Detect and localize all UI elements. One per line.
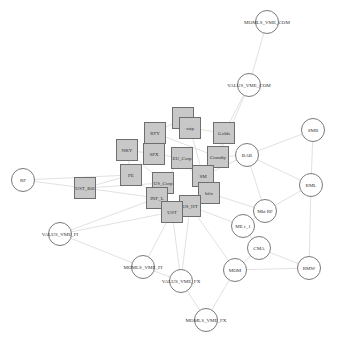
circle-node-bab[interactable]: BAB (235, 143, 259, 167)
node-label: SPX (149, 152, 158, 157)
node-label: VALUS_VME_FI (42, 232, 79, 237)
node-label: NKY (122, 148, 133, 153)
node-label: INF_L (150, 196, 164, 201)
square-node-spx[interactable]: SPX (143, 143, 165, 165)
graph-edges (0, 0, 338, 341)
node-label: RMW (303, 266, 316, 271)
node-label: BAB (242, 153, 252, 158)
square-node-rty[interactable]: RTY (144, 122, 166, 144)
square-node-pe[interactable]: PE (120, 164, 142, 186)
node-label: Comdty (210, 155, 226, 160)
graph-edge (60, 234, 143, 267)
circle-node-me-r-1[interactable]: ME r_1 (231, 214, 255, 238)
node-label: UST_Bill (75, 186, 94, 191)
node-label: VALUS_VME_COM (227, 83, 271, 88)
square-node-ust[interactable]: UST (161, 201, 183, 223)
circle-node-smb[interactable]: SMB (301, 118, 325, 142)
node-label: SMB (308, 128, 319, 133)
node-label: MOMLS_VME_COM (244, 20, 290, 25)
square-node-sstp[interactable]: sstp (179, 117, 201, 139)
node-label: US_Corp (154, 181, 173, 186)
circle-node-momls-vme-fx[interactable]: MOMLS_VME_FX (194, 308, 218, 332)
node-label: RTY (150, 131, 160, 136)
node-label: PE (128, 173, 134, 178)
node-label: MOMLS_VME_FX (186, 318, 227, 323)
node-label: SM (199, 174, 206, 179)
circle-node-valus-vme-fx[interactable]: VALUS_VME_FX (169, 269, 193, 293)
node-label: EU_Corp (172, 156, 191, 161)
node-label: bfix (205, 191, 213, 196)
node-label: RML (306, 183, 317, 188)
node-label: VALUS_VME_FX (162, 279, 201, 284)
circle-node-mkt-rf[interactable]: Mkt RF (253, 199, 277, 223)
graph-edge (60, 198, 157, 234)
square-node-ust-bill[interactable]: UST_Bill (74, 177, 96, 199)
circle-node-rf[interactable]: RF (11, 168, 35, 192)
node-label: US_HT (182, 204, 198, 209)
circle-node-valus-vme-fi[interactable]: VALUS_VME_FI (48, 222, 72, 246)
square-node-nky[interactable]: NKY (116, 139, 138, 161)
network-graph: MOMLS_VME_COMVALUS_VME_COMSMBBABRFRMLMkt… (0, 0, 338, 341)
node-label: MOMLS_VME_FI (124, 265, 163, 270)
circle-node-rml[interactable]: RML (299, 173, 323, 197)
circle-node-rmw[interactable]: RMW (297, 256, 321, 280)
node-label: UST (167, 210, 176, 215)
circle-node-valus-vme-com[interactable]: VALUS_VME_COM (237, 73, 261, 97)
square-node-eu-corp[interactable]: EU_Corp (171, 147, 193, 169)
circle-node-momls-vme-com[interactable]: MOMLS_VME_COM (255, 10, 279, 34)
node-label: Golds (218, 131, 230, 136)
circle-node-cma[interactable]: CMA (247, 236, 271, 260)
node-label: Mkt RF (257, 209, 273, 214)
node-label: ME r_1 (235, 224, 250, 229)
node-label: CMA (253, 246, 264, 251)
node-label: sstp (186, 126, 194, 131)
square-node-bfix[interactable]: bfix (198, 182, 220, 204)
node-label: RF (20, 178, 26, 183)
square-node-golds[interactable]: Golds (213, 122, 235, 144)
circle-node-momls-vme-fi[interactable]: MOMLS_VME_FI (131, 255, 155, 279)
node-label: MOM (229, 268, 242, 273)
circle-node-mom[interactable]: MOM (223, 258, 247, 282)
